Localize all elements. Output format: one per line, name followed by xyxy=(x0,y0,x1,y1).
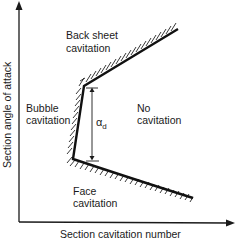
y-axis xyxy=(16,1,23,222)
svg-text:cavitation: cavitation xyxy=(73,197,118,209)
region-back-sheet-label: Back sheet cavitation xyxy=(66,29,118,54)
alpha-d-dimension: αd xyxy=(86,88,107,162)
region-face-label: Face cavitation xyxy=(73,185,118,209)
cavitation-bucket-diagram: αd Back sheet cavitation Bubble cavitati… xyxy=(0,0,237,239)
svg-text:cavitation: cavitation xyxy=(137,114,182,126)
x-axis-arrow-icon xyxy=(226,220,235,227)
svg-text:cavitation: cavitation xyxy=(26,114,71,126)
svg-text:No: No xyxy=(137,102,151,114)
svg-text:Bubble: Bubble xyxy=(26,102,59,114)
alpha-d-label: αd xyxy=(96,116,107,131)
svg-text:Face: Face xyxy=(73,185,97,197)
dimension-arrow-down-icon xyxy=(90,156,95,161)
region-no-cavitation-label: No cavitation xyxy=(137,102,182,126)
y-axis-arrow-icon xyxy=(16,1,23,10)
svg-text:Back sheet: Back sheet xyxy=(66,29,118,41)
y-axis-label: Section angle of attack xyxy=(1,61,13,168)
region-bubble-label: Bubble cavitation xyxy=(26,102,71,126)
x-axis-label: Section cavitation number xyxy=(60,228,181,239)
svg-text:cavitation: cavitation xyxy=(66,42,111,54)
x-axis xyxy=(19,220,235,227)
